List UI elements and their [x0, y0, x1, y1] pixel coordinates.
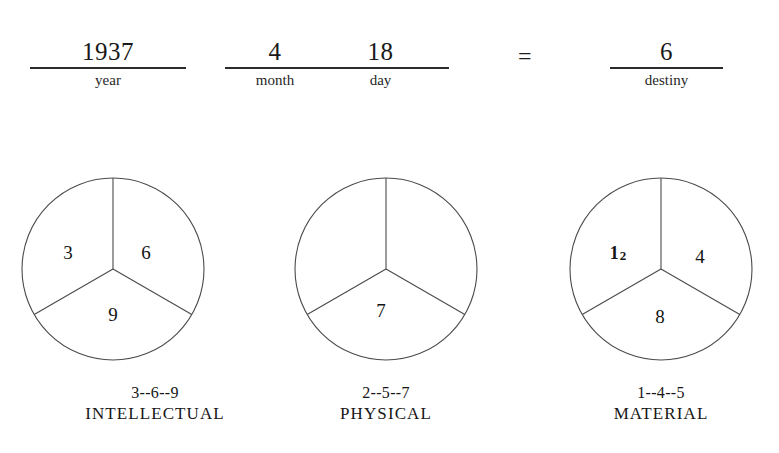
- numerology-destiny-chart: 1937 year 4 month 18 day = 6 destiny 3 6…: [0, 0, 779, 453]
- circle-material: 12 4 8: [568, 176, 754, 362]
- sector-right-number: 4: [695, 247, 705, 266]
- caption-material-triad: 1--4--5: [551, 382, 771, 403]
- equals-sign: =: [518, 44, 532, 68]
- sector-left-secondary-digit: 2: [620, 248, 627, 263]
- sector-bottom-number: 9: [108, 305, 118, 324]
- spoke-lower-right: [386, 269, 465, 315]
- circle-physical: 7: [293, 176, 479, 362]
- field-day-label: day: [312, 71, 449, 89]
- field-day: 18 day: [312, 38, 449, 89]
- sector-left-primary-digit: 1: [610, 243, 619, 263]
- field-month-label: month: [225, 71, 325, 89]
- caption-physical-category: PHYSICAL: [276, 403, 496, 425]
- circle-intellectual-graphic: [20, 176, 206, 362]
- field-year-rule: [30, 67, 186, 69]
- spoke-lower-left: [307, 269, 386, 315]
- field-month-rule: [225, 67, 325, 69]
- caption-intellectual-category: INTELLECTUAL: [45, 403, 265, 425]
- sector-right-number: 6: [141, 243, 151, 262]
- caption-intellectual-triad: 3--6--9: [45, 382, 265, 403]
- caption-intellectual: 3--6--9 INTELLECTUAL: [45, 382, 265, 425]
- circle-intellectual: 3 6 9: [20, 176, 206, 362]
- caption-physical: 2--5--7 PHYSICAL: [276, 382, 496, 425]
- field-year-label: year: [30, 71, 186, 89]
- field-year: 1937 year: [30, 38, 186, 89]
- field-destiny-rule: [610, 67, 723, 69]
- sector-left-number: 12: [610, 244, 627, 265]
- spoke-lower-left: [34, 269, 113, 315]
- sector-bottom-number: 8: [655, 307, 665, 326]
- circle-physical-graphic: [293, 176, 479, 362]
- field-day-rule: [312, 67, 449, 69]
- caption-physical-triad: 2--5--7: [276, 382, 496, 403]
- sector-left-number: 3: [63, 243, 73, 262]
- spoke-lower-right: [661, 269, 740, 315]
- field-day-value: 18: [312, 38, 449, 66]
- field-destiny: 6 destiny: [610, 38, 723, 89]
- field-month: 4 month: [225, 38, 325, 89]
- field-year-value: 1937: [30, 38, 186, 66]
- field-month-value: 4: [225, 38, 325, 66]
- circle-material-graphic: [568, 176, 754, 362]
- caption-material-category: MATERIAL: [551, 403, 771, 425]
- field-destiny-value: 6: [610, 38, 723, 66]
- field-destiny-label: destiny: [610, 71, 723, 89]
- sector-bottom-number: 7: [376, 301, 386, 320]
- spoke-lower-right: [113, 269, 192, 315]
- spoke-lower-left: [582, 269, 661, 315]
- caption-material: 1--4--5 MATERIAL: [551, 382, 771, 425]
